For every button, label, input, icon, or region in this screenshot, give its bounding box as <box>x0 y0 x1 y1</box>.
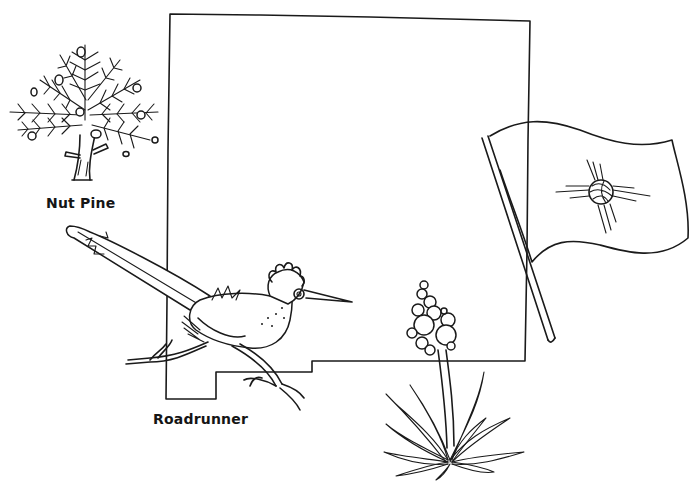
roadrunner-illustration <box>67 226 352 410</box>
nut-pine-label: Nut Pine <box>46 195 115 211</box>
roadrunner-label: Roadrunner <box>153 411 248 427</box>
illustration-svg <box>0 0 694 497</box>
yucca-illustration <box>384 281 524 480</box>
flag-illustration <box>482 122 688 342</box>
coloring-page: Nut Pine Roadrunner <box>0 0 694 497</box>
nut-pine-illustration <box>10 45 158 180</box>
